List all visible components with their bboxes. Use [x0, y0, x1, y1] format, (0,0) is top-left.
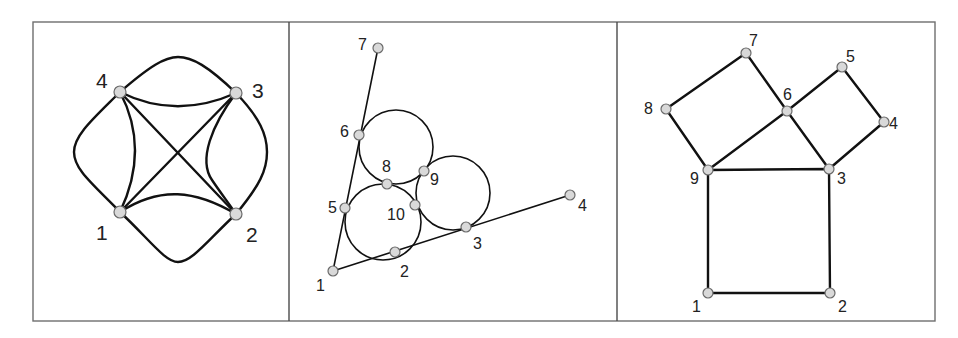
- node-right-8: [661, 104, 671, 114]
- panel-right-pythagoras: 1 2 3 4 5 6 7 8 9: [644, 32, 898, 315]
- node-middle-6: [354, 130, 364, 140]
- edge-4-1-outer: [74, 92, 120, 212]
- square-left-leg: [666, 53, 787, 170]
- node-right-6: [782, 106, 792, 116]
- edge-4-3-outer: [120, 57, 236, 93]
- node-right-3: [824, 164, 834, 174]
- node-right-9: [703, 165, 713, 175]
- node-label: 7: [749, 32, 758, 49]
- node-label: 1: [316, 277, 325, 294]
- node-right-1: [703, 288, 713, 298]
- diagram-figure: 1 2 3 4 1 2 3 4 5 6 7 8 9 10: [0, 0, 958, 338]
- edge-4-3-inner: [120, 92, 236, 106]
- panel-left-graph: 1 2 3 4: [74, 57, 267, 262]
- node-label: 9: [430, 171, 439, 188]
- square-right-leg: [787, 67, 884, 169]
- ray-1-7: [333, 48, 378, 271]
- node-middle-3: [461, 222, 471, 232]
- node-label: 3: [837, 170, 846, 187]
- node-label: 8: [644, 100, 653, 117]
- node-middle-1: [328, 266, 338, 276]
- node-middle-10: [410, 200, 420, 210]
- node-label: 4: [578, 197, 587, 214]
- node-label: 8: [382, 158, 391, 175]
- node-middle-2: [390, 247, 400, 257]
- node-label: 1: [692, 298, 701, 315]
- node-middle-4: [565, 190, 575, 200]
- node-label: 5: [328, 199, 337, 216]
- node-label: 3: [473, 235, 482, 252]
- node-right-7: [741, 48, 751, 58]
- node-middle-8: [382, 179, 392, 189]
- node-label: 4: [96, 69, 108, 92]
- panel-middle-circles: 1 2 3 4 5 6 7 8 9 10: [316, 36, 587, 294]
- node-label: 10: [387, 206, 405, 223]
- node-middle-9: [419, 166, 429, 176]
- node-label: 2: [400, 263, 409, 280]
- node-left-4: [114, 86, 126, 98]
- node-label: 3: [252, 79, 264, 102]
- edge-3-2-inner: [206, 93, 236, 214]
- edge-1-2-outer: [120, 212, 236, 262]
- node-left-3: [230, 87, 242, 99]
- node-right-4: [879, 117, 889, 127]
- square-hypotenuse: [708, 169, 830, 293]
- node-label: 4: [889, 115, 898, 132]
- node-label: 1: [96, 221, 108, 244]
- circle-bottom-left: [345, 184, 421, 260]
- node-label: 2: [838, 298, 847, 315]
- edge-4-1-inner: [120, 92, 135, 212]
- node-right-2: [825, 288, 835, 298]
- ray-1-4: [333, 195, 570, 271]
- node-left-1: [114, 206, 126, 218]
- node-middle-5: [340, 203, 350, 213]
- node-label: 9: [690, 170, 699, 187]
- node-label: 6: [783, 86, 792, 103]
- node-label: 5: [846, 48, 855, 65]
- node-label: 2: [246, 223, 258, 246]
- node-middle-7: [373, 43, 383, 53]
- node-left-2: [230, 208, 242, 220]
- node-label: 6: [340, 123, 349, 140]
- node-label: 7: [358, 36, 367, 53]
- edge-3-2-outer: [236, 93, 267, 214]
